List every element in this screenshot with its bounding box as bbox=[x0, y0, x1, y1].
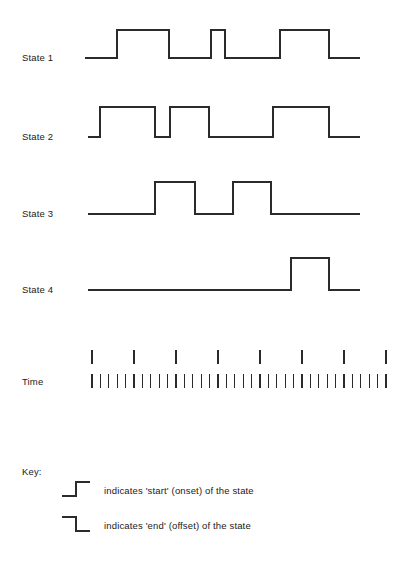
key-entry-end-label: indicates 'end' (offset) of the state bbox=[104, 520, 251, 531]
key-title: Key: bbox=[22, 466, 42, 477]
track-label-state-3: State 3 bbox=[22, 208, 53, 219]
track-label-state-1: State 1 bbox=[22, 52, 53, 63]
time-axis-label: Time bbox=[22, 376, 43, 387]
state-timeline-figure: State 1 State 2 State 3 State 4 Time Key… bbox=[0, 0, 417, 575]
track-label-state-2: State 2 bbox=[22, 131, 53, 142]
track-label-state-4: State 4 bbox=[22, 284, 53, 295]
key-entry-start-label: indicates 'start' (onset) of the state bbox=[104, 485, 254, 496]
